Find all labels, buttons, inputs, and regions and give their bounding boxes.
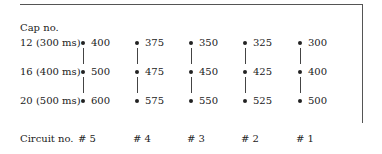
point-dot [243, 70, 247, 74]
point-dot [135, 70, 139, 74]
row-label: 20 (500 ms) [20, 95, 81, 107]
cell-value: 500 [308, 95, 327, 107]
connector-line [191, 48, 192, 64]
row-label: 16 (400 ms) [20, 66, 81, 78]
cell-value: 350 [199, 37, 218, 49]
cell-value: 450 [199, 66, 218, 78]
connector-line [191, 77, 192, 93]
connector-line [245, 77, 246, 93]
point-dot [189, 99, 193, 103]
connector-line [245, 48, 246, 64]
cell-value: 600 [91, 95, 110, 107]
circuit-number: # 3 [187, 133, 205, 145]
point-dot [135, 99, 139, 103]
point-dot [243, 41, 247, 45]
cell-value: 525 [253, 95, 272, 107]
point-dot [135, 41, 139, 45]
cell-value: 400 [308, 66, 327, 78]
cell-value: 575 [145, 95, 164, 107]
cell-value: 425 [253, 66, 272, 78]
point-dot [81, 41, 85, 45]
circuit-number: # 4 [133, 133, 151, 145]
connector-line [300, 77, 301, 93]
cell-value: 300 [308, 37, 327, 49]
point-dot [81, 70, 85, 74]
point-dot [298, 99, 302, 103]
circuit-no-label: Circuit no. [20, 133, 74, 145]
point-dot [243, 99, 247, 103]
cell-value: 475 [145, 66, 164, 78]
circuit-number: # 1 [296, 133, 314, 145]
cell-value: 550 [199, 95, 218, 107]
connector-line [83, 48, 84, 64]
point-dot [81, 99, 85, 103]
connector-line [83, 77, 84, 93]
point-dot [189, 41, 193, 45]
cell-value: 500 [91, 66, 110, 78]
point-dot [189, 70, 193, 74]
point-dot [298, 70, 302, 74]
connector-line [137, 77, 138, 93]
connector-line [300, 48, 301, 64]
row-label: 12 (300 ms) [20, 37, 81, 49]
frame-right-border [362, 4, 363, 123]
circuit-number: # 2 [241, 133, 259, 145]
point-dot [298, 41, 302, 45]
cap-no-heading: Cap no. [20, 22, 59, 34]
frame-top-border [20, 4, 362, 5]
connector-line [137, 48, 138, 64]
cell-value: 400 [91, 37, 110, 49]
cell-value: 375 [145, 37, 164, 49]
circuit-number: # 5 [78, 133, 96, 145]
cell-value: 325 [253, 37, 272, 49]
